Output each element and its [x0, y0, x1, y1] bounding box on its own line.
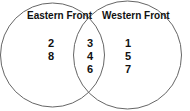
intersection-item: 4: [84, 50, 96, 63]
western-front-label: Western Front: [102, 10, 170, 21]
intersection-item: 3: [84, 37, 96, 50]
intersection-item: 6: [84, 63, 96, 76]
western-only-item: 7: [122, 63, 134, 76]
eastern-only-item: 2: [45, 37, 57, 50]
eastern-front-label: Eastern Front: [27, 10, 92, 21]
western-only-item: 5: [122, 50, 134, 63]
eastern-only-item: 8: [45, 50, 57, 63]
western-only-item: 1: [122, 37, 134, 50]
